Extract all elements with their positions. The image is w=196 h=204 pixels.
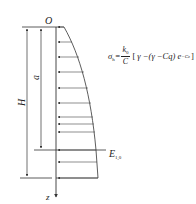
- pressure-diagram: O H a z E1,0: [0, 0, 196, 204]
- pressure-curve: [56, 27, 98, 178]
- formula-lhs: σh: [108, 51, 115, 62]
- height-label: H: [16, 98, 27, 107]
- origin-label: O: [45, 15, 52, 26]
- pressure-arrows: [58, 27, 98, 178]
- formula-close-bracket: ]: [191, 51, 194, 61]
- formula-exponent: −Cz: [181, 54, 190, 59]
- e10-label: E1,0: [108, 148, 122, 161]
- formula-equals: =: [115, 51, 121, 61]
- depth-a-label: a: [30, 75, 41, 80]
- z-axis-label: z: [45, 192, 50, 202]
- formula-fraction: k0 C: [121, 46, 129, 66]
- formula-body: γ −(γ −Cq) e: [137, 51, 181, 61]
- pressure-formula: σh = k0 C [ γ −(γ −Cq) e−Cz ]: [108, 46, 194, 66]
- formula-open-bracket: [: [133, 51, 136, 61]
